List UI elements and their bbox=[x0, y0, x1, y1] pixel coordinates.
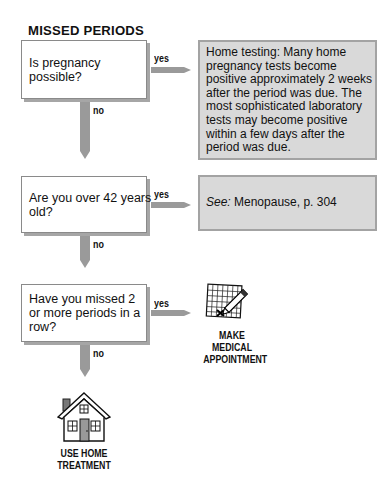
info-box-home-testing: Home testing: Many home pregnancy tests … bbox=[198, 40, 377, 160]
no-arrow-icon bbox=[80, 345, 90, 377]
see-reference[interactable]: See: Menopause, p. 304 bbox=[206, 196, 337, 210]
info-text: tests may become positive bbox=[206, 114, 375, 128]
info-text: period was due. bbox=[206, 141, 375, 155]
yes-arrow-icon bbox=[151, 66, 191, 74]
no-label: no bbox=[93, 347, 104, 359]
question-text: Have you missed 2 bbox=[29, 292, 146, 306]
no-arrow-icon bbox=[80, 236, 90, 268]
question-text: Is pregnancy bbox=[29, 56, 146, 70]
info-box-menopause: See: Menopause, p. 304 bbox=[198, 175, 377, 231]
calendar-pencil-icon bbox=[203, 281, 253, 325]
no-label: no bbox=[93, 238, 104, 250]
yes-arrow-icon bbox=[151, 201, 191, 209]
make-appointment-label: MAKE MEDICAL APPOINTMENT bbox=[196, 329, 268, 365]
house-icon bbox=[56, 391, 112, 445]
no-arrow-icon bbox=[80, 102, 90, 159]
info-text: positive approximately 2 weeks bbox=[206, 73, 375, 87]
question-text: or more periods in a bbox=[29, 306, 146, 320]
info-text: most sophisticated laboratory bbox=[206, 100, 375, 114]
yes-label: yes bbox=[154, 52, 169, 64]
yes-label: yes bbox=[154, 297, 169, 309]
info-text: after the period was due. The bbox=[206, 87, 375, 101]
question-box-missed-2: Have you missed 2 or more periods in a r… bbox=[21, 284, 147, 342]
question-text: Are you over 42 years bbox=[29, 191, 146, 205]
yes-label: yes bbox=[154, 188, 169, 200]
question-text: possible? bbox=[29, 70, 146, 84]
info-text: Home testing: Many home bbox=[206, 46, 375, 60]
chart-title: MISSED PERIODS bbox=[28, 24, 144, 38]
use-home-treatment-label: USE HOME TREATMENT bbox=[50, 447, 118, 471]
question-box-over-42: Are you over 42 years old? bbox=[21, 176, 147, 233]
reference-text: Menopause, p. 304 bbox=[231, 195, 337, 209]
question-box-pregnancy: Is pregnancy possible? bbox=[21, 40, 147, 99]
question-text: old? bbox=[29, 205, 146, 219]
info-text: pregnancy tests become bbox=[206, 60, 375, 74]
question-text: row? bbox=[29, 320, 146, 334]
info-text: within a few days after the bbox=[206, 128, 375, 142]
yes-arrow-icon bbox=[151, 309, 191, 317]
see-label: See: bbox=[206, 195, 231, 209]
no-label: no bbox=[93, 104, 104, 116]
